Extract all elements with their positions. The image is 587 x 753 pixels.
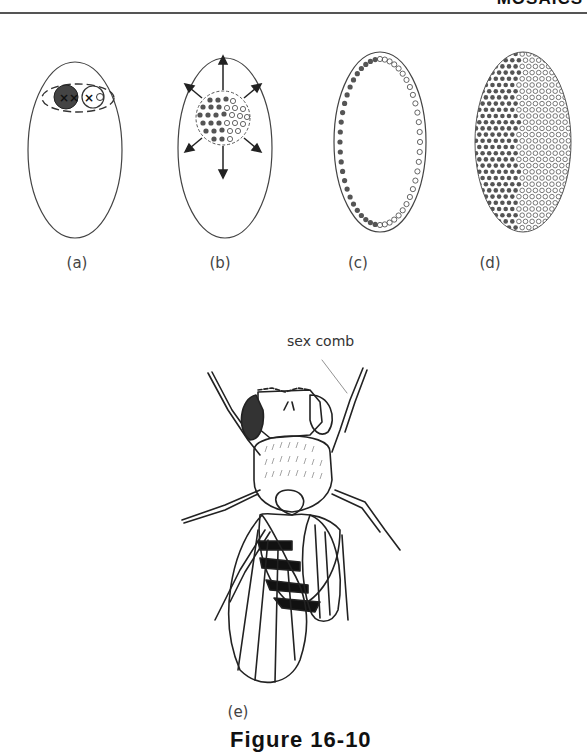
panel-d-label: (d) [470,254,510,272]
svg-text:×: × [84,91,94,105]
panel-b-diagram [170,48,280,243]
panel-b-label: (b) [200,254,240,272]
panel-a-diagram: ×× × [20,55,130,245]
nucleus-cluster [196,91,250,145]
panel-c-label: (c) [338,254,378,272]
panel-c-diagram [325,45,435,240]
running-head: MOSAICS [497,0,583,9]
figure-caption: Figure 16-10 [230,727,372,753]
panel-d-diagram [470,45,580,240]
header-rule [0,12,587,14]
panel-a-label: (a) [57,254,97,272]
egg-outline [334,52,426,232]
panel-e-label: (e) [218,703,258,721]
panel-e-fly-drawing [170,340,420,690]
svg-text:××: ×× [59,91,79,105]
